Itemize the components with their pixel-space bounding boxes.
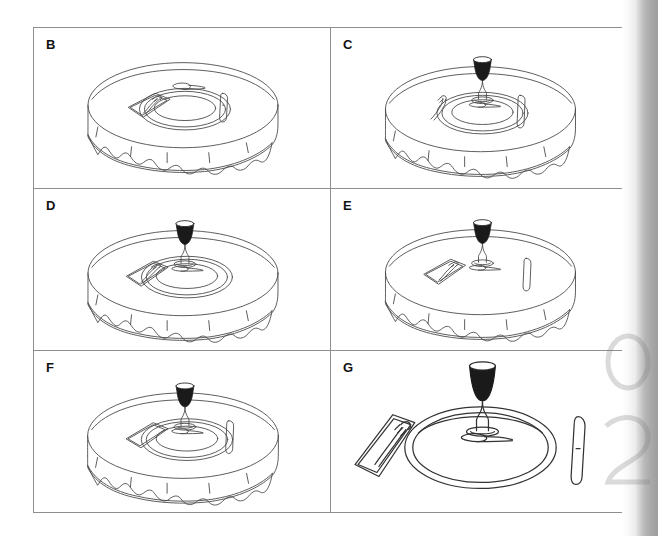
- panel-f-illustration: [34, 351, 330, 512]
- panel-g-illustration: [331, 351, 628, 512]
- panel-grid: B: [34, 28, 628, 512]
- panel-d[interactable]: D: [34, 189, 331, 350]
- panel-e-illustration: [331, 189, 628, 349]
- page-canvas: B: [0, 0, 658, 536]
- figure-frame: B: [33, 27, 629, 513]
- panel-b-illustration: [34, 28, 330, 188]
- panel-c[interactable]: C: [331, 28, 628, 189]
- scan-gutter: [622, 0, 634, 536]
- panel-f[interactable]: F: [34, 351, 331, 512]
- panel-c-illustration: [331, 28, 628, 188]
- scan-page-edge: [634, 0, 658, 536]
- panel-b[interactable]: B: [34, 28, 331, 189]
- panel-d-illustration: [34, 189, 330, 349]
- panel-g[interactable]: G: [331, 351, 628, 512]
- panel-e[interactable]: E: [331, 189, 628, 350]
